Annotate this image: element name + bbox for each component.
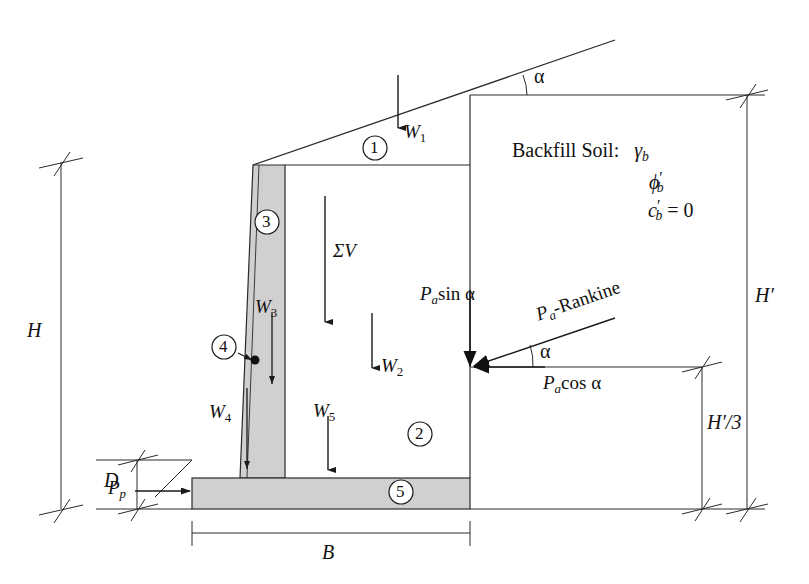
force-label-W3: W3 bbox=[255, 297, 277, 320]
dim-label-H-prime-over-3: H′/3 bbox=[707, 412, 741, 432]
callout-4-point bbox=[251, 356, 260, 365]
force-label-Pa-sin-alpha: Pasin α bbox=[420, 284, 475, 307]
dim-label-H: H bbox=[27, 320, 41, 340]
callout-label-3: 3 bbox=[262, 213, 271, 230]
wall-footing-shape bbox=[192, 478, 470, 509]
angle-arcs bbox=[523, 75, 533, 367]
callout-label-1: 1 bbox=[370, 139, 379, 156]
dimension-lines bbox=[39, 84, 768, 546]
alpha-arc-top bbox=[523, 75, 527, 95]
wall-concrete bbox=[192, 165, 470, 509]
force-label-W1: W1 bbox=[404, 122, 426, 145]
backfill-note-cohesion: c′b= 0 bbox=[648, 198, 693, 223]
alpha-arc-force bbox=[530, 345, 533, 367]
force-label-W4: W4 bbox=[209, 402, 231, 425]
backfill-note-phi: ϕ′b bbox=[649, 170, 664, 195]
callout-label-2: 2 bbox=[415, 425, 424, 442]
force-label-Pp: Pp bbox=[108, 478, 126, 501]
retaining-wall-figure: 1 2 3 4 5 H D B H′ H′/3 α α ΣV W1 W2 W3 … bbox=[0, 0, 809, 584]
force-label-W5: W5 bbox=[313, 401, 335, 424]
dim-label-H-prime: H′ bbox=[755, 285, 774, 305]
force-label-sigma-V: ΣV bbox=[333, 241, 356, 260]
force-label-Pa-cos-alpha: Pacos α bbox=[543, 373, 601, 396]
backfill-note-title: Backfill Soil: γb bbox=[512, 140, 649, 163]
force-label-W2: W2 bbox=[381, 356, 403, 379]
callout-label-5: 5 bbox=[396, 483, 405, 500]
dim-label-B: B bbox=[322, 542, 334, 562]
alpha-label-top: α bbox=[534, 66, 544, 86]
callout-label-4: 4 bbox=[219, 338, 228, 355]
alpha-label-force: α bbox=[540, 341, 550, 361]
